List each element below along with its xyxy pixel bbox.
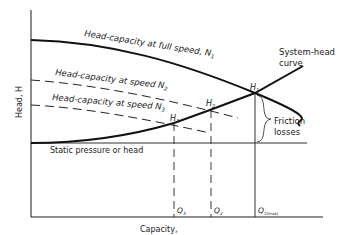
h3-label: H3	[170, 114, 179, 124]
y-axis-label: Head, H	[15, 86, 24, 118]
svg-text:Head-capacity at full speed, N: Head-capacity at full speed, N1	[84, 28, 216, 59]
system-head-label-2: curve	[279, 58, 303, 68]
system-head-label: System-head	[279, 47, 335, 57]
friction-label-2: losses	[274, 127, 301, 137]
friction-label: Friction	[274, 116, 305, 126]
h1-label: H1	[250, 83, 259, 93]
friction-brace-icon	[257, 95, 271, 142]
svg-text:Head-capacity at speed N3: Head-capacity at speed N3	[52, 92, 166, 113]
pump-curve-diagram: Head-capacity at full speed, N1 Head-cap…	[0, 0, 346, 235]
full-speed-label: Head-capacity at full speed, N1	[84, 28, 216, 59]
q1-label: Q1(max)	[258, 206, 279, 216]
h2-label: H2	[206, 99, 215, 109]
speed-n2-label: Head-capacity at speed N2	[55, 67, 169, 92]
svg-text:Head-capacity at speed N2: Head-capacity at speed N2	[55, 67, 169, 92]
full-speed-curve	[31, 40, 302, 126]
x-axis-label: Capacity,	[140, 225, 178, 234]
q3-label: Q3	[177, 206, 186, 216]
q2-label: Q2	[214, 206, 223, 216]
speed-n3-label: Head-capacity at speed N3	[52, 92, 166, 113]
static-head-label: Static pressure or head	[50, 146, 143, 155]
